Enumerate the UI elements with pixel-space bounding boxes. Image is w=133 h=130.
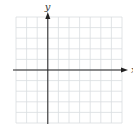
y-axis-arrow-icon xyxy=(45,12,50,19)
y-axis-label: y xyxy=(44,1,51,12)
coordinate-plane: x y xyxy=(0,0,133,130)
x-axis-arrow-icon xyxy=(121,68,128,73)
x-axis-label: x xyxy=(131,64,133,75)
axes: x y xyxy=(13,1,133,124)
